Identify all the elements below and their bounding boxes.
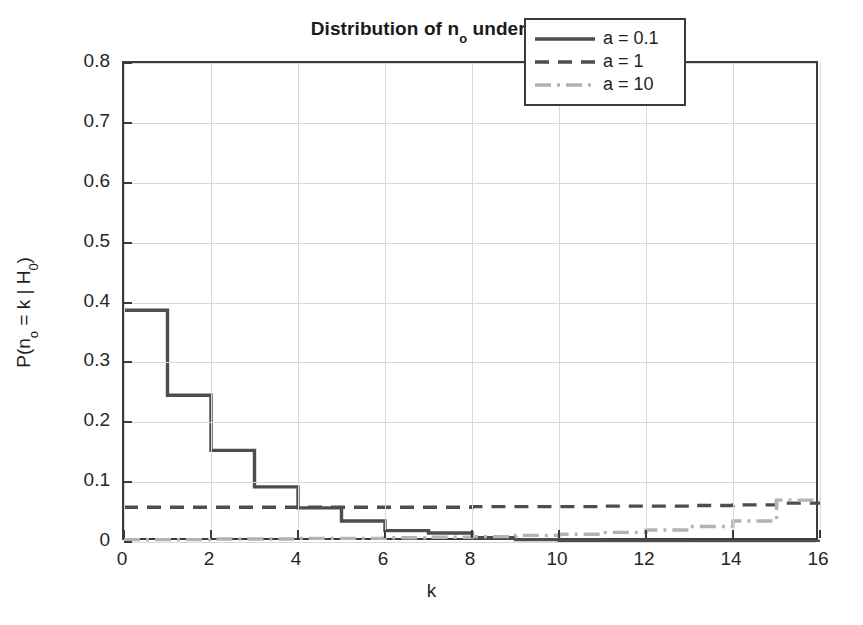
y-tick-label: 0.1 bbox=[0, 469, 110, 491]
legend-item[interactable]: a = 1 bbox=[534, 50, 676, 73]
gridline-horizontal bbox=[124, 542, 816, 543]
legend-item[interactable]: a = 10 bbox=[534, 73, 676, 96]
gridline-vertical bbox=[472, 63, 473, 538]
x-tick-label: 6 bbox=[353, 548, 413, 570]
gridline-horizontal bbox=[124, 123, 816, 124]
y-tick-label: 0.4 bbox=[0, 290, 110, 312]
legend: a = 0.1a = 1a = 10 bbox=[524, 18, 686, 106]
gridline-horizontal bbox=[124, 63, 816, 64]
gridline-vertical bbox=[646, 63, 647, 538]
legend-label: a = 0.1 bbox=[603, 28, 659, 49]
gridline-vertical bbox=[124, 63, 125, 538]
gridline-vertical bbox=[559, 63, 560, 538]
gridline-horizontal bbox=[124, 362, 816, 363]
ylabel-subscript-zero: 0 bbox=[26, 263, 41, 270]
legend-label: a = 1 bbox=[603, 51, 644, 72]
gridline-horizontal bbox=[124, 243, 816, 244]
tickmark-y bbox=[124, 421, 132, 423]
tickmark-x bbox=[645, 530, 647, 538]
tickmark-x bbox=[471, 530, 473, 538]
x-axis-label: k bbox=[0, 580, 863, 602]
x-tick-label: 2 bbox=[179, 548, 239, 570]
tickmark-x bbox=[819, 530, 821, 538]
gridline-vertical bbox=[385, 63, 386, 538]
x-tick-label: 16 bbox=[788, 548, 848, 570]
y-tick-label: 0.3 bbox=[0, 349, 110, 371]
gridline-horizontal bbox=[124, 303, 816, 304]
y-tick-label: 0.7 bbox=[0, 110, 110, 132]
legend-line-swatch bbox=[534, 33, 596, 45]
tickmark-x bbox=[297, 530, 299, 538]
chart-figure: Distribution of no under H0 P(no = k | H… bbox=[0, 0, 863, 625]
ylabel-suffix: ) bbox=[13, 257, 34, 263]
tickmark-y bbox=[124, 302, 132, 304]
y-tick-label: 0.2 bbox=[0, 409, 110, 431]
tickmark-x bbox=[210, 530, 212, 538]
gridline-horizontal bbox=[124, 422, 816, 423]
tickmark-y bbox=[124, 122, 132, 124]
tickmark-y bbox=[124, 361, 132, 363]
tickmark-y bbox=[124, 541, 132, 543]
x-tick-label: 14 bbox=[701, 548, 761, 570]
tickmark-x bbox=[558, 530, 560, 538]
tickmark-x bbox=[732, 530, 734, 538]
tickmark-y bbox=[124, 481, 132, 483]
y-tick-label: 0.6 bbox=[0, 170, 110, 192]
page-title: Distribution of no under H0 bbox=[0, 18, 863, 43]
title-prefix: Distribution of n bbox=[311, 18, 459, 39]
legend-line-swatch bbox=[534, 79, 596, 91]
x-tick-label: 8 bbox=[440, 548, 500, 570]
y-tick-label: 0.8 bbox=[0, 50, 110, 72]
legend-line-swatch bbox=[534, 56, 596, 68]
ylabel-subscript-o: o bbox=[26, 331, 41, 338]
x-tick-label: 10 bbox=[527, 548, 587, 570]
tickmark-y bbox=[124, 182, 132, 184]
gridline-vertical bbox=[733, 63, 734, 538]
gridline-vertical bbox=[298, 63, 299, 538]
gridline-horizontal bbox=[124, 183, 816, 184]
gridline-vertical bbox=[820, 63, 821, 538]
x-tick-label: 4 bbox=[266, 548, 326, 570]
legend-label: a = 10 bbox=[603, 74, 654, 95]
x-tick-label: 0 bbox=[92, 548, 152, 570]
title-subscript-o: o bbox=[459, 31, 467, 46]
x-tick-label: 12 bbox=[614, 548, 674, 570]
tickmark-y bbox=[124, 242, 132, 244]
gridline-vertical bbox=[211, 63, 212, 538]
tickmark-x bbox=[384, 530, 386, 538]
gridline-horizontal bbox=[124, 482, 816, 483]
tickmark-x bbox=[123, 530, 125, 538]
y-tick-label: 0.5 bbox=[0, 230, 110, 252]
legend-item[interactable]: a = 0.1 bbox=[534, 27, 676, 50]
tickmark-y bbox=[124, 62, 132, 64]
plot-area bbox=[122, 61, 818, 540]
